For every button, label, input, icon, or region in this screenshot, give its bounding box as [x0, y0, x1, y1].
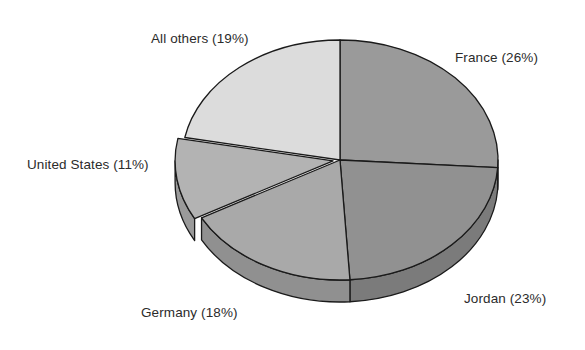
slice-label-jordan: Jordan (23%) — [464, 291, 546, 306]
slice-label-all-others: All others (19%) — [151, 31, 249, 46]
slice-label-france: France (26%) — [455, 50, 538, 65]
pie-slice-jordan — [340, 160, 498, 280]
slice-label-germany: Germany (18%) — [141, 305, 238, 320]
pie-chart-screenshot: All others (19%) France (26%) United Sta… — [0, 0, 585, 350]
pie-group — [175, 40, 498, 302]
pie-slice-all-others — [185, 40, 340, 160]
slice-label-united-states: United States (11%) — [27, 157, 149, 172]
